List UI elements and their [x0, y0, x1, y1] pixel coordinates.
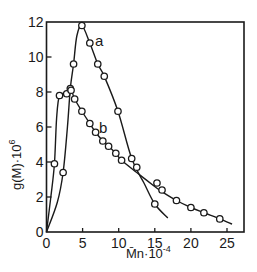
series-label-a: a: [95, 32, 104, 49]
y-tick-label: 12: [28, 14, 44, 30]
marker-b: [100, 138, 106, 144]
marker-b: [188, 204, 194, 210]
marker-b: [68, 87, 74, 93]
marker-b: [71, 96, 77, 102]
marker-b: [118, 157, 124, 163]
marker-a: [95, 61, 101, 67]
marker-a: [87, 40, 93, 46]
marker-a: [101, 73, 107, 79]
y-tick-label: 4: [36, 154, 44, 170]
y-tick-label: 2: [36, 189, 44, 205]
plot-border: [47, 22, 245, 232]
x-tick-label: 5: [79, 235, 87, 251]
marker-b: [113, 150, 119, 156]
x-axis-label: M̄n·10-4: [126, 244, 171, 261]
marker-b: [201, 210, 207, 216]
marker-b: [92, 129, 98, 135]
marker-a: [60, 169, 66, 175]
svg-text:M̄n·10-4: M̄n·10-4: [126, 244, 171, 261]
y-tick-label: 8: [36, 84, 44, 100]
marker-b: [51, 161, 57, 167]
y-tick-label: 0: [36, 224, 44, 240]
marker-b: [134, 164, 140, 170]
marker-a: [79, 22, 85, 28]
marker-b: [56, 92, 62, 98]
x-tick-label: 25: [219, 235, 235, 251]
y-tick-label: 10: [28, 49, 44, 65]
marker-b: [159, 187, 165, 193]
x-tick-label: 0: [43, 235, 51, 251]
marker-a: [128, 155, 134, 161]
marker-b: [105, 143, 111, 149]
data-markers: [51, 22, 223, 222]
plot-frame: [47, 22, 245, 232]
x-tick-label: 10: [111, 235, 127, 251]
x-tick-label: 20: [183, 235, 199, 251]
marker-a: [70, 61, 76, 67]
y-tick-label: 6: [36, 119, 44, 135]
marker-b: [173, 197, 179, 203]
svg-text:g(M)·106: g(M)·106: [7, 139, 24, 190]
marker-b: [154, 180, 160, 186]
marker-a: [115, 108, 121, 114]
marker-a: [152, 201, 158, 207]
marker-b: [87, 120, 93, 126]
marker-b: [79, 108, 85, 114]
marker-b: [217, 216, 223, 222]
chart: 0510152025024681012 a b g(M)·106 M̄n·10-…: [0, 0, 257, 272]
series-label-b: b: [99, 119, 107, 136]
curves: [47, 25, 233, 232]
y-axis-label: g(M)·106: [7, 139, 24, 190]
